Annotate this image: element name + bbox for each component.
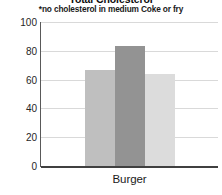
chart-container: Total Cholesterol *no cholesterol in med… bbox=[0, 0, 222, 195]
x-axis: Burger bbox=[41, 169, 218, 187]
y-tick-label-0: 0 bbox=[3, 161, 37, 172]
bar-burger-series-2 bbox=[115, 46, 145, 166]
y-axis: 020406080100 bbox=[0, 0, 37, 195]
y-tick-label-60: 60 bbox=[3, 74, 37, 85]
y-tick-label-40: 40 bbox=[3, 103, 37, 114]
bar-burger-series-3 bbox=[145, 74, 175, 166]
bars-layer bbox=[41, 22, 218, 166]
y-tick-label-80: 80 bbox=[3, 45, 37, 56]
x-axis-line bbox=[41, 166, 218, 168]
y-tick-label-20: 20 bbox=[3, 132, 37, 143]
y-tick-label-100: 100 bbox=[3, 17, 37, 28]
bar-burger-series-1 bbox=[85, 70, 115, 166]
x-axis-category-label: Burger bbox=[113, 173, 147, 185]
